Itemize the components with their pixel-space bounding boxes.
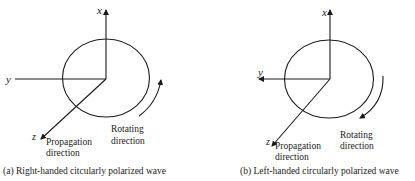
y-axis-label: y (257, 66, 263, 78)
propagation-label-line2: direction (275, 152, 309, 162)
x-axis-label: x (96, 4, 102, 16)
propagation-label-line2: direction (46, 148, 80, 158)
panel-b-left-handed: x y z Propagation direction Rotating dir… (240, 6, 399, 177)
x-axis-label: x (321, 6, 327, 18)
panel-a-right-handed: x y z Propagation direction Rotating dir… (3, 4, 166, 177)
propagation-label: Propagation (46, 137, 92, 147)
z-axis-label: z (31, 131, 36, 142)
rotating-label-line2: direction (111, 136, 145, 146)
rotation-arrow-up-icon (139, 80, 161, 116)
rotating-label: Rotating (111, 124, 144, 134)
y-axis-label: y (5, 73, 11, 85)
rotating-label-line2: direction (340, 141, 374, 151)
propagation-label: Propagation (275, 141, 321, 151)
caption-b: (b) Left-handed circularly polarized wav… (240, 166, 399, 177)
z-axis-arrow (41, 79, 106, 139)
caption-a: (a) Right-handed citcularly polarized wa… (3, 166, 166, 177)
rotating-label: Rotating (340, 130, 373, 140)
polarization-diagram: x y z Propagation direction Rotating dir… (0, 0, 415, 181)
z-axis-arrow (272, 79, 330, 146)
z-axis-label: z (265, 136, 270, 147)
rotation-arrow-down-icon (360, 76, 383, 118)
